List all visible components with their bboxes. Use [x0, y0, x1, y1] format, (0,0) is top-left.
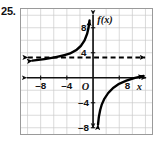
origin-label: O: [82, 81, 90, 92]
x-tick-8: 8: [125, 80, 131, 91]
x-tick-neg8: –8: [35, 80, 46, 91]
grid-lines: [21, 9, 152, 134]
y-tick-8: 8: [81, 22, 87, 33]
x-tick-neg4: –4: [61, 80, 72, 91]
y-tick-neg8: –8: [78, 122, 89, 133]
y-tick-4: 4: [81, 47, 87, 58]
exercise-number: 25.: [1, 6, 16, 17]
x-axis-label: x: [136, 81, 142, 92]
exercise-figure-25: 25.: [0, 0, 158, 143]
function-label: f(x): [97, 14, 112, 26]
graph-figure: f(x) 8 4 –4 –8 –8 –4 8 x O: [20, 8, 153, 135]
y-tick-neg4: –4: [78, 97, 89, 108]
coordinate-plane: f(x) 8 4 –4 –8 –8 –4 8 x O: [21, 9, 152, 134]
